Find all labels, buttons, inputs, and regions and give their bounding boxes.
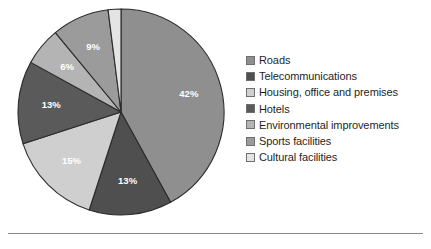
legend-item-label: Environmental improvements xyxy=(259,119,399,131)
legend-swatch-icon xyxy=(246,72,255,81)
legend-item-label: Hotels xyxy=(259,103,290,115)
legend-item[interactable]: Environmental improvements xyxy=(246,117,428,133)
legend-item-label: Telecommunications xyxy=(259,70,357,82)
legend-swatch-icon xyxy=(246,56,255,65)
legend-item[interactable]: Telecommunications xyxy=(246,68,428,84)
pie-slice-label: 42% xyxy=(179,88,199,99)
footer-divider xyxy=(8,233,423,234)
legend-item-label: Housing, office and premises xyxy=(259,86,398,98)
legend-swatch-icon xyxy=(246,153,255,162)
pie-svg: 42%13%15%13%6%9%2% xyxy=(8,4,236,220)
legend-item[interactable]: Housing, office and premises xyxy=(246,84,428,100)
pie-slice-label: 9% xyxy=(86,41,100,52)
legend-item-label: Roads xyxy=(259,54,290,66)
legend-swatch-icon xyxy=(246,88,255,97)
pie-slice-label: 13% xyxy=(118,175,138,186)
legend-swatch-icon xyxy=(246,137,255,146)
legend-item-label: Cultural facilities xyxy=(259,151,337,163)
legend-swatch-icon xyxy=(246,120,255,129)
legend-item[interactable]: Cultural facilities xyxy=(246,149,428,165)
pie-chart-figure: 42%13%15%13%6%9%2% RoadsTelecommunicatio… xyxy=(0,0,431,249)
legend-item-label: Sports facilities xyxy=(259,135,331,147)
legend-item[interactable]: Sports facilities xyxy=(246,133,428,149)
pie-slice-label: 13% xyxy=(42,99,62,110)
legend-item[interactable]: Hotels xyxy=(246,101,428,117)
chart-legend: RoadsTelecommunicationsHousing, office a… xyxy=(246,52,428,165)
pie-plot-area: 42%13%15%13%6%9%2% xyxy=(8,4,236,220)
pie-slice-label: 6% xyxy=(60,61,74,72)
legend-swatch-icon xyxy=(246,104,255,113)
pie-slice-label: 15% xyxy=(62,155,82,166)
legend-item[interactable]: Roads xyxy=(246,52,428,68)
